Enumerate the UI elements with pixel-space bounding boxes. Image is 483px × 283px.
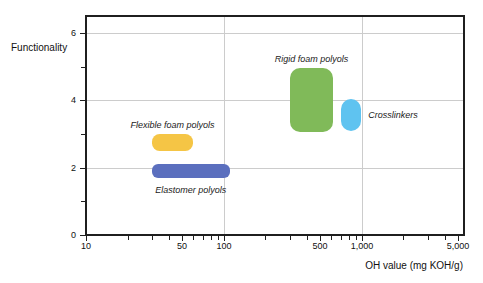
x-tick-label: 10 — [66, 241, 106, 252]
x-minor-tick — [331, 236, 332, 240]
x-tick-label: 50 — [162, 241, 202, 252]
y-minor-tick — [81, 201, 86, 202]
y-tick-label: 0 — [52, 230, 76, 241]
x-minor-tick — [356, 236, 357, 240]
y-tick — [80, 100, 86, 101]
y-tick — [80, 33, 86, 34]
x-minor-tick — [193, 236, 194, 240]
x-tick-label: 100 — [204, 241, 244, 252]
x-minor-tick — [218, 236, 219, 240]
x-minor-tick — [169, 236, 170, 240]
x-minor-tick — [307, 236, 308, 240]
plot-frame — [85, 15, 465, 236]
x-minor-tick — [349, 236, 350, 240]
x-minor-tick — [128, 236, 129, 240]
x-tick-label: 1,000 — [342, 241, 382, 252]
y-tick-label: 4 — [52, 95, 76, 106]
x-minor-tick — [341, 236, 342, 240]
x-minor-tick — [265, 236, 266, 240]
x-minor-tick — [290, 236, 291, 240]
y-minor-tick — [81, 134, 86, 135]
y-axis-title: Functionality — [11, 42, 67, 53]
x-minor-tick — [403, 236, 404, 240]
x-minor-tick — [428, 236, 429, 240]
x-minor-tick — [445, 236, 446, 240]
x-minor-tick — [211, 236, 212, 240]
x-axis-title: OH value (mg KOH/g) — [365, 260, 463, 271]
x-minor-tick — [203, 236, 204, 240]
x-tick-label: 500 — [300, 241, 340, 252]
x-tick-label: 5,000 — [438, 241, 478, 252]
polyol-functionality-chart: Functionality Flexible foam polyolsElast… — [0, 0, 483, 283]
x-minor-tick — [152, 236, 153, 240]
y-tick — [80, 168, 86, 169]
y-tick-label: 6 — [52, 28, 76, 39]
y-minor-tick — [81, 67, 86, 68]
y-tick-label: 2 — [52, 163, 76, 174]
